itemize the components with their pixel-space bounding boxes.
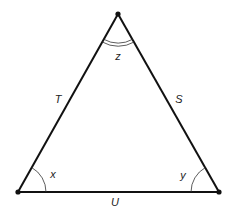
side-t: [18, 14, 118, 192]
label-angle-z: z: [114, 50, 121, 62]
vertex-bottom-right: [216, 189, 221, 194]
label-side-u: U: [111, 196, 119, 208]
angle-arc-z-inner: [102, 42, 134, 46]
label-angle-y: y: [179, 169, 187, 181]
label-side-s: S: [175, 93, 183, 105]
vertex-top: [115, 11, 120, 16]
label-angle-x: x: [49, 168, 56, 180]
vertex-bottom-left: [15, 189, 20, 194]
angle-arc-y: [191, 168, 205, 192]
triangle-diagram: T S U x y z: [0, 0, 232, 216]
side-s: [118, 14, 219, 192]
label-side-t: T: [55, 93, 63, 105]
angle-arc-z-outer: [104, 39, 133, 43]
angle-arc-x: [32, 168, 46, 192]
